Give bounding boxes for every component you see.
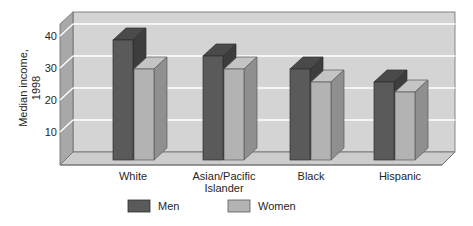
bar-group-hispanic <box>374 70 428 160</box>
bar-group-asian-pacific-islander <box>203 44 257 160</box>
bar-side-face <box>331 70 344 160</box>
y-axis-ticks: 40 30 20 10 <box>45 30 57 138</box>
bar-front-face <box>290 69 310 160</box>
bar-side-face <box>415 80 428 160</box>
y-axis-title: Median income, 1998 <box>17 49 42 127</box>
bar-asian-women[interactable] <box>224 57 257 160</box>
legend-swatch-women <box>228 200 250 212</box>
bar-side-face <box>154 57 167 160</box>
x-axis-labels: White Asian/Pacific Islander Black Hispa… <box>119 170 422 194</box>
legend-label-women: Women <box>258 200 296 212</box>
bar-front-face <box>134 69 154 160</box>
bar-front-face <box>395 92 415 160</box>
bar-hispanic-women[interactable] <box>395 80 428 160</box>
legend: Men Women <box>128 200 296 212</box>
x-label-asian-line1: Asian/Pacific <box>193 170 256 182</box>
x-label-hispanic: Hispanic <box>379 170 422 182</box>
y-tick-label-30: 30 <box>45 62 57 74</box>
bar-front-face <box>311 82 331 160</box>
y-axis-title-line1: Median income, <box>17 49 29 127</box>
bar-white-women[interactable] <box>134 57 167 160</box>
y-axis-title-line2: 1998 <box>30 76 42 100</box>
bar-side-face <box>244 57 257 160</box>
legend-item-men[interactable]: Men <box>128 200 179 212</box>
y-tick-label-40: 40 <box>45 30 57 42</box>
legend-label-men: Men <box>158 200 179 212</box>
x-label-white: White <box>119 170 147 182</box>
x-label-black: Black <box>298 170 325 182</box>
y-tick-label-20: 20 <box>45 94 57 106</box>
bar-group-black <box>290 57 344 160</box>
bar-black-women[interactable] <box>311 70 344 160</box>
bar-front-face <box>224 69 244 160</box>
bar-front-face <box>203 56 223 160</box>
legend-item-women[interactable]: Women <box>228 200 296 212</box>
bar-front-face <box>113 40 133 160</box>
x-label-asian-line2: Islander <box>204 182 243 194</box>
bar-front-face <box>374 82 394 160</box>
y-tick-label-10: 10 <box>45 126 57 138</box>
legend-swatch-men <box>128 200 150 212</box>
bar-chart-3d: Median income, 1998 <box>0 0 473 226</box>
chart-root: Median income, 1998 <box>0 0 473 226</box>
plot-area: 40 30 20 10 <box>45 12 455 165</box>
